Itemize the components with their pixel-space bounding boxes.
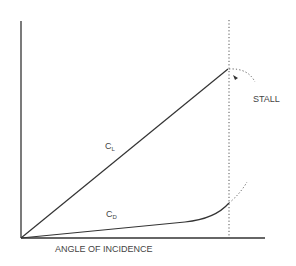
stall-arrow-curve bbox=[229, 69, 255, 82]
cl-label: CL bbox=[105, 141, 115, 152]
cd-curve bbox=[21, 203, 229, 238]
stall-label: STALL bbox=[253, 94, 280, 104]
cd-dotted-continuation bbox=[229, 182, 247, 203]
x-axis-label: ANGLE OF INCIDENCE bbox=[55, 244, 153, 254]
stall-arrowhead bbox=[233, 75, 238, 80]
cl-line bbox=[21, 69, 228, 238]
chart-canvas bbox=[0, 0, 296, 266]
cd-label: CD bbox=[106, 209, 117, 220]
